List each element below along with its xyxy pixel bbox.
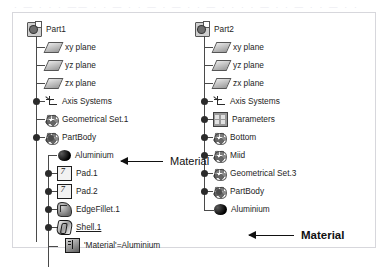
tree-node-yz-plane[interactable]: yz plane — [195, 56, 296, 74]
annotation-label: Material — [301, 229, 344, 241]
tree-expand-knob[interactable] — [45, 170, 52, 177]
pad-icon — [57, 166, 72, 181]
tree-node-label: Shell.1 — [76, 222, 101, 233]
plane-icon — [44, 60, 64, 71]
plane-icon — [44, 42, 64, 53]
axis-icon — [213, 95, 226, 108]
tree-node-parameters[interactable]: Parameters — [195, 110, 296, 128]
tree-node-label: Bottom — [230, 132, 256, 143]
tree-expand-knob[interactable] — [45, 188, 52, 195]
tree-panel: Part1 xy plane yz plane zx plane Axis Sy… — [12, 12, 376, 248]
tree-root-node[interactable]: Part2 — [195, 21, 296, 38]
clipped-header-text: · — · · · —— · · — · · — · — · · — · · ·… — [0, 0, 389, 11]
tree-node-label: yz plane — [65, 60, 96, 71]
tree-node-label: PartBody — [62, 132, 96, 143]
tree-node-axis-systems[interactable]: Axis Systems — [195, 92, 296, 110]
partbody-icon — [45, 131, 58, 144]
tree-node-label: yz plane — [233, 60, 264, 71]
tree-connector-elbow — [48, 236, 58, 247]
tree-connector-stub — [48, 155, 57, 156]
arrow-icon — [249, 235, 294, 236]
material-icon — [58, 150, 71, 161]
tree-expand-knob[interactable] — [201, 116, 208, 123]
tree-node-zx-plane[interactable]: zx plane — [195, 74, 296, 92]
plane-icon — [212, 60, 232, 71]
tree-node-label: Miid — [230, 150, 245, 161]
tree-node-label: Parameters — [232, 114, 275, 125]
tree-expand-knob[interactable] — [201, 134, 208, 141]
plane-icon — [44, 78, 64, 89]
pad-icon — [57, 184, 72, 199]
tree-node-yz-plane[interactable]: yz plane — [27, 56, 160, 74]
tree-node-geometrical-set-1[interactable]: Geometrical Set.1 — [27, 110, 160, 128]
tree-node-zx-plane[interactable]: zx plane — [27, 74, 160, 92]
tree-connector-stub — [204, 47, 213, 48]
plane-icon — [212, 42, 232, 53]
axis-icon — [45, 95, 58, 108]
tree-node-partbody[interactable]: PartBody — [195, 182, 296, 200]
tree-node-material-parameter[interactable]: 'Material'=Aluminium — [27, 236, 160, 254]
tree-node-label: Geometrical Set.1 — [62, 114, 128, 125]
tree-node-label: xy plane — [233, 42, 264, 53]
tree-node-label: zx plane — [233, 78, 264, 89]
tree-node-label: Axis Systems — [230, 96, 280, 107]
part-icon — [195, 22, 210, 37]
tree-node-label: Axis Systems — [62, 96, 112, 107]
partbody-icon — [213, 185, 226, 198]
tree-expand-knob[interactable] — [201, 188, 208, 195]
arrow-icon — [121, 161, 163, 162]
specification-tree-part2: Part2 xy plane yz plane zx plane Axis Sy… — [195, 21, 296, 218]
tree-node-pad-2[interactable]: Pad.2 — [27, 182, 160, 200]
geoset-icon — [213, 131, 226, 144]
plane-icon — [212, 78, 232, 89]
specification-tree-part1: Part1 xy plane yz plane zx plane Axis Sy… — [27, 21, 160, 254]
tree-node-label: Geometrical Set.3 — [230, 168, 296, 179]
geoset-icon — [45, 113, 58, 126]
shell-icon — [56, 220, 74, 235]
tree-node-partbody[interactable]: PartBody — [27, 128, 160, 146]
tree-node-label: Aluminium — [231, 204, 270, 215]
param-icon — [213, 112, 228, 127]
tree-connector-stub — [36, 47, 45, 48]
tree-node-bottom[interactable]: Bottom — [195, 128, 296, 146]
material-icon — [214, 204, 227, 215]
tree-connector-stub — [204, 83, 213, 84]
annotation-material-right: Material — [249, 229, 344, 241]
annotation-material-left: Material — [121, 155, 209, 167]
tree-node-label: EdgeFillet.1 — [76, 204, 120, 215]
fillet-icon — [57, 202, 72, 217]
tree-root-node[interactable]: Part1 — [27, 21, 160, 38]
geoset-icon — [213, 167, 226, 180]
tree-expand-knob[interactable] — [201, 98, 208, 105]
tree-node-miid[interactable]: Miid — [195, 146, 296, 164]
tree-node-axis-systems[interactable]: Axis Systems — [27, 92, 160, 110]
tree-node-xy-plane[interactable]: xy plane — [195, 38, 296, 56]
tree-connector-stub — [36, 119, 45, 120]
tree-expand-knob[interactable] — [33, 98, 40, 105]
tree-node-shell-1[interactable]: Shell.1 — [27, 218, 160, 236]
tree-node-xy-plane[interactable]: xy plane — [27, 38, 160, 56]
cube-icon — [65, 238, 80, 253]
tree-node-label: Pad.1 — [76, 168, 98, 179]
tree-node-label: PartBody — [230, 186, 264, 197]
annotation-label: Material — [170, 155, 209, 167]
tree-node-edgefillet-1[interactable]: EdgeFillet.1 — [27, 200, 160, 218]
tree-node-geometrical-set-3[interactable]: Geometrical Set.3 — [195, 164, 296, 182]
tree-node-label: Part2 — [214, 24, 234, 35]
tree-expand-knob[interactable] — [45, 224, 52, 231]
tree-node-label: Pad.2 — [76, 186, 98, 197]
tree-node-aluminium[interactable]: Aluminium — [195, 200, 296, 218]
part-icon — [27, 22, 42, 37]
tree-node-label: zx plane — [65, 78, 96, 89]
tree-node-label: Part1 — [46, 24, 66, 35]
tree-expand-knob[interactable] — [45, 206, 52, 213]
tree-node-label: 'Material'=Aluminium — [84, 240, 160, 251]
tree-connector-stub — [36, 83, 45, 84]
tree-node-label: xy plane — [65, 42, 96, 53]
tree-connector-elbow — [204, 200, 214, 211]
tree-expand-knob[interactable] — [33, 134, 40, 141]
tree-expand-knob[interactable] — [201, 170, 208, 177]
tree-node-label: Aluminium — [75, 150, 114, 161]
tree-connector-stub — [36, 65, 45, 66]
tree-connector-stub — [204, 65, 213, 66]
